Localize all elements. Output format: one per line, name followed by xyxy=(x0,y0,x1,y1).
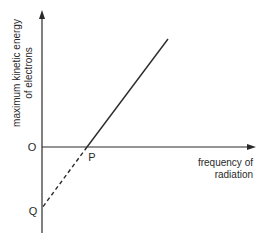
x-axis-label-line2: radiation xyxy=(215,169,253,180)
y-axis-label-line1: maximum kinetic energy xyxy=(11,19,22,127)
y-axis-arrow-icon xyxy=(39,10,45,19)
x-axis-arrow-icon xyxy=(247,144,256,150)
point-p-label: P xyxy=(88,151,95,163)
point-q-label: Q xyxy=(29,205,38,217)
origin-label: O xyxy=(28,141,37,153)
kinetic-energy-line xyxy=(87,39,168,147)
x-axis-label-line1: frequency of xyxy=(198,157,253,168)
photoelectric-graph: O P Q maximum kinetic energy of electron… xyxy=(0,0,263,243)
y-axis-label-line2: of electrons xyxy=(23,47,34,99)
extrapolation-dashed-line xyxy=(42,147,87,208)
